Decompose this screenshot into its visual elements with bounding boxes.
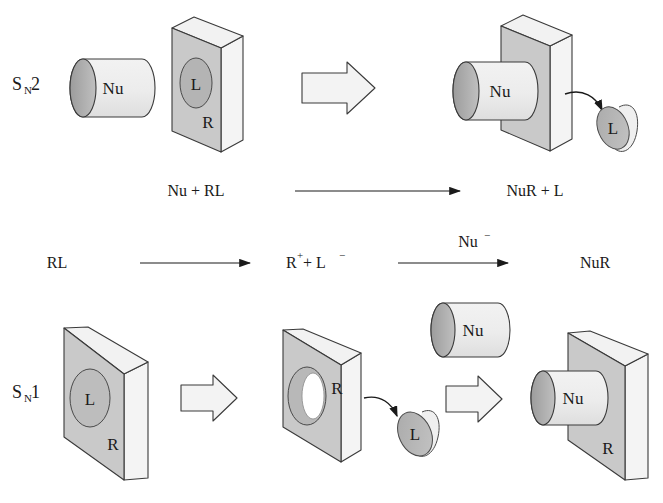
sn2-product-assembly: Nu <box>453 15 572 151</box>
sn2-reactant-nu-cap <box>70 59 96 117</box>
sn1-step2-r-text: R <box>331 379 343 398</box>
sn2-transform-block-arrow-icon <box>302 62 375 114</box>
sn1-transform-block-arrow-2-icon <box>446 376 502 422</box>
ionization-start: RL <box>47 254 67 271</box>
sn2-label-s: S <box>12 74 22 94</box>
sn2-reactant-slab: L R <box>172 17 243 152</box>
sn2-equation-left: Nu + RL <box>167 182 224 199</box>
ionization-reagent-charge: − <box>484 229 490 241</box>
sn1-step2-slab: R <box>283 329 361 462</box>
sn1-free-nu-cylinder: Nu <box>431 303 510 357</box>
sn1-label-num: 1 <box>31 382 40 402</box>
sn1-label-s: S <box>12 382 22 402</box>
sn2-reactant-r-text: R <box>202 113 214 132</box>
sn1-leaving-l-text: L <box>410 425 420 444</box>
ionization-intermediate-plus-l: + L <box>303 254 326 271</box>
sn1-step2-hole-opening <box>302 373 324 419</box>
sn1-product-slab-side <box>625 354 648 480</box>
mechanism-diagram: S N 2 Nu L R Nu <box>0 0 663 503</box>
sn2-reactant-slab-side <box>221 36 243 152</box>
sn1-product-nu-text: Nu <box>563 389 584 408</box>
sn2-reactant-nu-cylinder: Nu <box>70 59 155 117</box>
ionization-intermediate-l-charge: − <box>339 249 345 261</box>
figure-canvas: S N 2 Nu L R Nu <box>0 0 663 503</box>
ionization-product: NuR <box>580 254 611 271</box>
sn1-step2-slab-side <box>341 353 361 462</box>
sn1-step1-r-text: R <box>107 435 119 454</box>
ionization-reagent-nu: Nu <box>458 233 478 250</box>
sn2-mechanism-label: S N 2 <box>12 74 40 96</box>
sn1-mechanism-label: S N 1 <box>12 382 40 404</box>
sn2-reactant-nu-text: Nu <box>103 79 124 98</box>
sn2-product-nu-cap <box>453 62 479 120</box>
ionization-equation: RL R + + L − Nu − NuR <box>47 229 611 271</box>
sn1-product-assembly: Nu R <box>531 331 648 480</box>
ionization-intermediate-r: R <box>286 254 297 271</box>
sn1-free-nu-text: Nu <box>463 321 484 340</box>
sn2-equation-right: NuR + L <box>506 182 563 199</box>
sn1-transform-block-arrow-1-icon <box>181 375 237 421</box>
sn1-product-r-text: R <box>602 439 614 458</box>
sn2-label-num: 2 <box>31 74 40 94</box>
sn2-equation: Nu + RL NuR + L <box>167 182 563 199</box>
sn1-step1-slab: L R <box>64 327 148 480</box>
sn1-leaving-group: L <box>364 397 439 462</box>
sn1-product-nu-cap <box>531 371 555 425</box>
sn2-reactant-l-text: L <box>191 75 201 94</box>
sn2-leaving-group: L <box>565 92 638 154</box>
sn1-free-nu-cap <box>431 303 455 357</box>
sn1-step1-slab-side <box>124 362 148 480</box>
sn1-step1-l-text: L <box>85 390 95 409</box>
sn2-product-nu-text: Nu <box>490 82 511 101</box>
sn2-leaving-l-text: L <box>608 119 618 138</box>
sn1-leaving-curved-arrow-icon <box>364 397 397 416</box>
